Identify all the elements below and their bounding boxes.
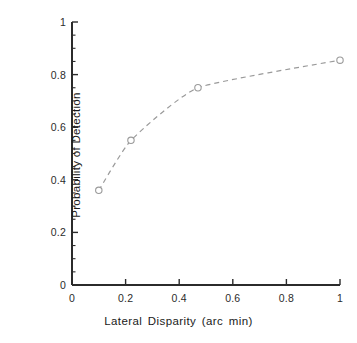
chart-data-series	[99, 60, 340, 190]
y-tick-label: 0	[38, 279, 66, 291]
y-tick-label: 0.2	[38, 226, 66, 238]
chart-figure: 00.20.40.60.81 00.20.40.60.81 Lateral Di…	[0, 0, 357, 343]
x-tick-label: 0.4	[172, 292, 187, 304]
x-tick-label: 0.8	[279, 292, 294, 304]
x-tick-label: 0	[69, 292, 75, 304]
x-axis-title: Lateral Disparity (arc min)	[0, 315, 357, 327]
y-tick-label: 0.6	[38, 121, 66, 133]
chart-axes	[72, 22, 340, 285]
y-tick-label: 0.8	[38, 69, 66, 81]
y-tick-label: 0.4	[38, 174, 66, 186]
x-tick-label: 0.2	[118, 292, 133, 304]
y-axis-title: Probability of Detection	[70, 92, 82, 217]
y-tick-label: 1	[38, 16, 66, 28]
chart-data-markers	[96, 57, 344, 194]
chart-tick-marks	[72, 22, 340, 285]
x-tick-label: 0.6	[225, 292, 240, 304]
x-tick-label: 1	[337, 292, 343, 304]
